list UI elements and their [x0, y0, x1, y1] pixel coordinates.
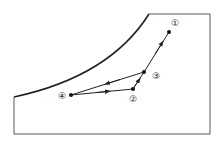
- point-1-dot: [167, 30, 171, 34]
- arrow-2-to-3: [134, 80, 139, 87]
- boundary-curve: [14, 14, 149, 97]
- point-4-label: ④: [58, 91, 66, 101]
- point-4-dot: [69, 93, 73, 97]
- arrow-3-to-4: [107, 80, 120, 84]
- arrow-3-to-1: [155, 43, 162, 54]
- state-points: [69, 30, 171, 97]
- diagram-canvas: ① ③ ② ④: [0, 0, 221, 143]
- process-path: [71, 32, 169, 95]
- point-2-label: ②: [129, 94, 137, 104]
- boundary-frame: [14, 14, 210, 134]
- point-3-dot: [142, 70, 146, 74]
- point-3-label: ③: [152, 71, 160, 81]
- point-labels: ① ③ ② ④: [58, 18, 179, 104]
- region-boundary: [14, 14, 210, 134]
- point-1-label: ①: [171, 18, 179, 28]
- point-2-dot: [131, 87, 135, 91]
- arrow-4-to-2: [96, 91, 108, 92]
